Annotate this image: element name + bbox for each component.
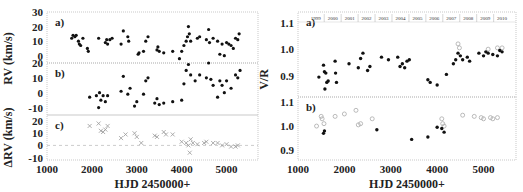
x-tick-label: 5000 xyxy=(473,163,496,175)
data-point xyxy=(459,54,462,57)
data-point xyxy=(191,141,195,145)
data-point xyxy=(126,35,129,38)
year-label: 2008 xyxy=(463,16,474,21)
data-point xyxy=(500,50,503,53)
data-point xyxy=(218,53,221,56)
data-point xyxy=(88,96,91,99)
data-point xyxy=(77,40,80,43)
data-point xyxy=(128,87,131,90)
data-point xyxy=(103,128,107,132)
year-label: 2005 xyxy=(412,16,423,21)
x-tick-label: 4000 xyxy=(426,163,449,175)
data-point xyxy=(347,62,350,65)
data-point xyxy=(185,40,188,43)
x-tick-label: 2000 xyxy=(333,163,356,175)
data-point xyxy=(236,38,239,41)
data-point xyxy=(88,124,92,128)
data-point xyxy=(158,50,161,53)
data-point xyxy=(440,127,443,130)
data-point xyxy=(435,126,438,129)
y-tick-label: 0.9 xyxy=(280,144,294,156)
data-point xyxy=(146,35,149,38)
subplot-label: a) xyxy=(55,16,65,29)
data-point xyxy=(357,66,360,69)
data-point xyxy=(135,100,138,103)
data-point xyxy=(326,79,329,82)
data-point xyxy=(188,151,192,155)
data-point xyxy=(461,58,464,61)
data-point-open xyxy=(342,112,346,116)
y-tick-label: 1.1 xyxy=(280,17,294,29)
data-point xyxy=(180,50,183,53)
year-label: 2002 xyxy=(362,16,373,21)
data-point xyxy=(144,79,147,82)
data-point xyxy=(153,102,156,105)
data-point xyxy=(119,90,122,93)
data-point xyxy=(236,76,239,79)
data-point xyxy=(182,44,185,47)
data-point xyxy=(198,35,201,38)
year-label: 2003 xyxy=(379,16,390,21)
data-point xyxy=(180,140,184,144)
data-point xyxy=(189,137,193,141)
data-point-open xyxy=(457,46,461,50)
subplot-frame xyxy=(47,12,258,63)
data-point xyxy=(456,51,459,54)
data-point xyxy=(398,65,401,68)
data-point xyxy=(171,100,174,103)
data-point xyxy=(106,94,109,97)
data-point xyxy=(322,63,325,66)
data-point xyxy=(486,51,489,54)
data-point xyxy=(187,63,190,66)
y-tick-label: 10 xyxy=(32,127,44,139)
data-point xyxy=(209,78,212,81)
data-point xyxy=(229,44,232,47)
data-point xyxy=(207,28,210,31)
data-point xyxy=(139,141,143,145)
data-point xyxy=(180,99,183,102)
data-point xyxy=(442,130,445,133)
data-point xyxy=(410,138,413,141)
data-point xyxy=(194,79,197,82)
data-point xyxy=(380,55,383,58)
data-point xyxy=(218,79,221,82)
data-point xyxy=(187,25,190,28)
subplot-label: b) xyxy=(55,67,65,80)
data-point xyxy=(212,84,215,87)
y-tick-label: 1.0 xyxy=(280,120,294,132)
x-tick-label: 2000 xyxy=(81,163,104,175)
y-tick-label: 20 xyxy=(32,57,44,69)
y-tick-label: 20 xyxy=(32,115,44,127)
data-point xyxy=(189,73,192,76)
data-point xyxy=(435,83,438,86)
data-point xyxy=(70,37,73,40)
data-point xyxy=(142,93,145,96)
data-point xyxy=(95,94,98,97)
data-point xyxy=(234,73,237,76)
data-point xyxy=(75,34,78,37)
data-point xyxy=(133,104,136,107)
data-point xyxy=(185,69,188,72)
data-point xyxy=(189,40,192,43)
data-point xyxy=(155,97,158,100)
subplot-frame xyxy=(47,115,258,160)
data-point xyxy=(158,103,161,106)
data-point xyxy=(146,76,149,79)
data-point xyxy=(452,62,455,65)
data-point xyxy=(81,37,84,40)
data-point-open xyxy=(370,117,374,121)
data-point xyxy=(232,47,235,50)
data-point xyxy=(186,35,189,38)
data-point xyxy=(106,124,110,128)
data-point xyxy=(122,75,125,78)
y-tick-label: -10 xyxy=(28,102,43,114)
data-point xyxy=(229,145,233,149)
data-point-open xyxy=(456,42,460,46)
data-point-open xyxy=(440,117,444,121)
y-tick-label: 30 xyxy=(32,6,44,18)
data-point xyxy=(104,100,107,103)
x-tick-label: 4000 xyxy=(171,163,194,175)
year-label: 2006 xyxy=(429,16,440,21)
data-point xyxy=(238,32,241,35)
data-point xyxy=(207,61,210,64)
